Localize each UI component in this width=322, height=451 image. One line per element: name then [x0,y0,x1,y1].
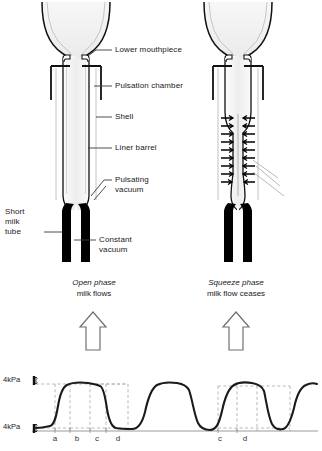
up-arrow-icon-squeeze-phase [223,312,249,350]
callout-label-lower-mouthpiece: Lower mouthpiece [115,45,182,55]
vacuum-arrows-right-column [243,116,255,185]
phase-caption-squeeze: Squeeze phase milk flow ceases [180,277,292,299]
phase-subtitle-open: milk flows [40,288,148,299]
vacuum-arrows-left-column [221,116,233,185]
callout-label-constant-vacuum: Constant vacuum [99,235,132,255]
callout-label-liner-barrel: Liner barrel [115,143,157,153]
vacuum-waveform-chart [32,376,318,433]
chart-tick-label-d2: d [240,434,250,443]
teatcup-squeeze-phase [204,2,272,262]
chart-dashed-guides [36,384,290,431]
teatcup-pulsation-figure [0,0,322,451]
chart-tick-label-c: c [92,434,102,443]
chart-axis-label-bottom: 4kPa [3,422,20,431]
callout-label-shell: Shell [115,112,133,122]
up-arrow-icon-open-phase [80,312,106,350]
callout-label-short-milk-tube: Short milk tube [5,207,25,237]
phase-caption-open: Open phase milk flows [40,277,148,299]
chart-tick-label-b: b [72,434,82,443]
phase-title-squeeze: Squeeze phase [180,277,292,288]
phase-title-open: Open phase [40,277,148,288]
short-milk-tube-left [62,203,74,262]
short-milk-tube-right-right [240,203,252,262]
diagram-page: Lower mouthpiece Pulsation chamber Shell… [0,0,322,451]
callout-label-pulsation-chamber: Pulsation chamber [115,81,183,91]
short-milk-tube-right [224,203,236,262]
teatcup-open-phase [42,2,110,262]
leader-right-vacuum-c [256,166,280,186]
vacuum-waveform-curve [36,382,317,430]
chart-tick-label-a: a [50,434,60,443]
chart-tick-label-d: d [113,434,123,443]
callout-label-pulsating-vacuum: Pulsating vacuum [115,175,149,195]
chart-tick-label-c2: c [215,434,225,443]
chart-axis-label-top: 4kPa [3,375,20,384]
short-milk-tube-right-left [78,203,90,262]
leader-lower-mouthpiece [88,50,112,56]
phase-subtitle-squeeze: milk flow ceases [180,288,292,299]
leader-pulsating-vacuum [91,180,112,196]
